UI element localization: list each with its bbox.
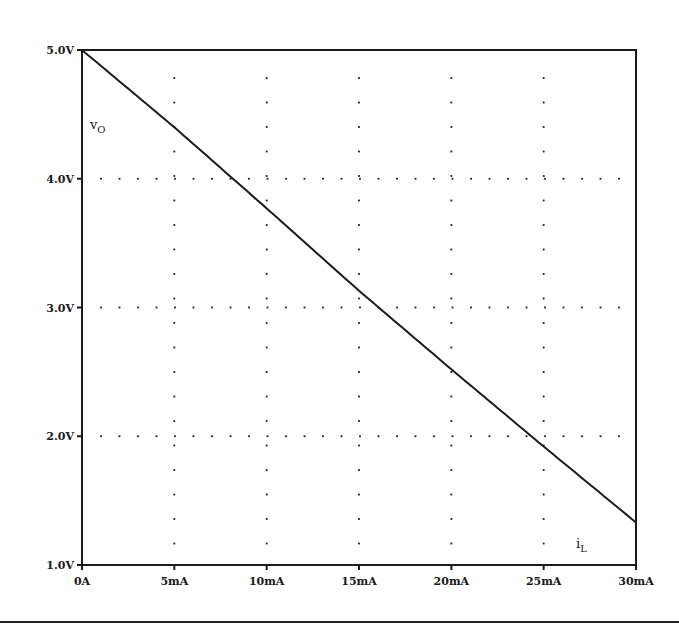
axis-ticks bbox=[77, 50, 636, 570]
y-tick-label: 1.0V bbox=[46, 559, 74, 572]
x-tick-label: 15mA bbox=[341, 575, 377, 588]
x-tick-label: 25mA bbox=[526, 575, 562, 588]
y-variable-label: vO bbox=[89, 117, 106, 135]
y-axis-tick-labels: 1.0V2.0V3.0V4.0V5.0V bbox=[46, 44, 74, 572]
x-tick-label: 30mA bbox=[618, 575, 654, 588]
y-tick-label: 2.0V bbox=[46, 430, 74, 443]
y-tick-label: 4.0V bbox=[46, 173, 74, 186]
chart-canvas: 1.0V2.0V3.0V4.0V5.0V 0A5mA10mA15mA20mA25… bbox=[0, 0, 679, 640]
y-tick-label: 3.0V bbox=[46, 302, 74, 315]
x-variable-label: iL bbox=[576, 536, 587, 554]
dotted-grid bbox=[100, 77, 620, 544]
x-axis-tick-labels: 0A5mA10mA15mA20mA25mA30mA bbox=[74, 575, 654, 588]
vo-vs-il-curve bbox=[82, 50, 636, 523]
page-divider-line bbox=[0, 621, 679, 623]
x-tick-label: 10mA bbox=[249, 575, 285, 588]
x-tick-label: 20mA bbox=[434, 575, 470, 588]
y-tick-label: 5.0V bbox=[46, 44, 74, 57]
x-tick-label: 5mA bbox=[160, 575, 188, 588]
x-tick-label: 0A bbox=[74, 575, 91, 588]
